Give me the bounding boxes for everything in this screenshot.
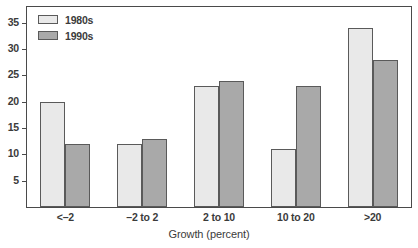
y-axis-tick-label: 15 — [8, 121, 19, 133]
y-axis-tick-mark — [22, 154, 26, 155]
y-axis-tick-label: 10 — [8, 147, 19, 159]
bar-group — [271, 7, 321, 207]
bar-1980s-10 to 20 — [271, 149, 296, 207]
x-axis-tick-label: >20 — [334, 211, 411, 223]
bar-1980s-2 to 10 — [194, 86, 219, 207]
x-axis-tick-label: –2 to 2 — [104, 211, 181, 223]
bar-1990s-–2 to 2 — [142, 139, 167, 207]
x-axis-tick-label: 10 to 20 — [257, 211, 334, 223]
bar-1990s-2 to 10 — [219, 81, 244, 207]
legend-swatch-1980s — [38, 15, 58, 24]
y-axis-tick-mark — [22, 49, 26, 50]
y-axis-tick-mark — [22, 181, 26, 182]
bar-group — [194, 7, 244, 207]
y-axis-tick-label: 25 — [8, 68, 19, 80]
bar-1990s-<–2 — [65, 144, 90, 207]
y-axis-tick-label: 35 — [8, 16, 19, 28]
legend-swatch-1990s — [38, 31, 58, 40]
bar-group — [348, 7, 398, 207]
bar-1980s-–2 to 2 — [117, 144, 142, 207]
y-axis-tick-mark — [22, 75, 26, 76]
legend-item-1990s: 1990s — [38, 29, 122, 42]
bar-1990s-10 to 20 — [296, 86, 321, 207]
legend-label-1990s: 1990s — [65, 30, 93, 42]
y-axis-tick-label: 5 — [13, 174, 19, 186]
bar-1990s->20 — [373, 60, 398, 207]
y-axis-tick-mark — [22, 23, 26, 24]
bar-chart: 5101520253035 <–2–2 to 22 to 1010 to 20>… — [0, 0, 418, 248]
y-axis-tick-mark — [22, 102, 26, 103]
legend: 1980s 1990s — [38, 13, 122, 45]
legend-item-1980s: 1980s — [38, 13, 122, 26]
bar-1980s-<–2 — [40, 102, 65, 207]
x-axis-tick-label: 2 to 10 — [181, 211, 258, 223]
bar-1980s->20 — [348, 28, 373, 207]
x-axis-tick-labels: <–2–2 to 22 to 1010 to 20>20 — [27, 211, 411, 227]
y-axis-tick-mark — [22, 128, 26, 129]
bar-group — [117, 7, 167, 207]
legend-label-1980s: 1980s — [65, 14, 93, 26]
x-axis-title: Growth (percent) — [0, 228, 418, 240]
y-axis-tick-label: 20 — [8, 95, 19, 107]
x-axis-tick-label: <–2 — [27, 211, 104, 223]
y-axis-tick-label: 30 — [8, 42, 19, 54]
